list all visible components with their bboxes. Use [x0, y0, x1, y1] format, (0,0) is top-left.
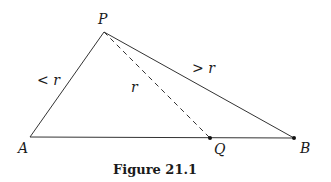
point-b-dot — [292, 136, 296, 140]
label-p: P — [97, 11, 108, 27]
label-q: Q — [214, 141, 226, 157]
label-edge-pa: < r — [37, 72, 61, 88]
label-edge-pb: > r — [192, 60, 216, 76]
label-a: A — [16, 140, 28, 156]
edge-pq-dashed — [104, 32, 210, 138]
label-b: B — [299, 140, 310, 156]
triangle-diagram: P A Q B < r r > r Figure 21.1 — [0, 0, 331, 182]
figure-caption: Figure 21.1 — [113, 162, 197, 177]
edge-ab — [30, 137, 294, 138]
point-q-dot — [208, 136, 212, 140]
label-edge-pq: r — [131, 79, 139, 95]
